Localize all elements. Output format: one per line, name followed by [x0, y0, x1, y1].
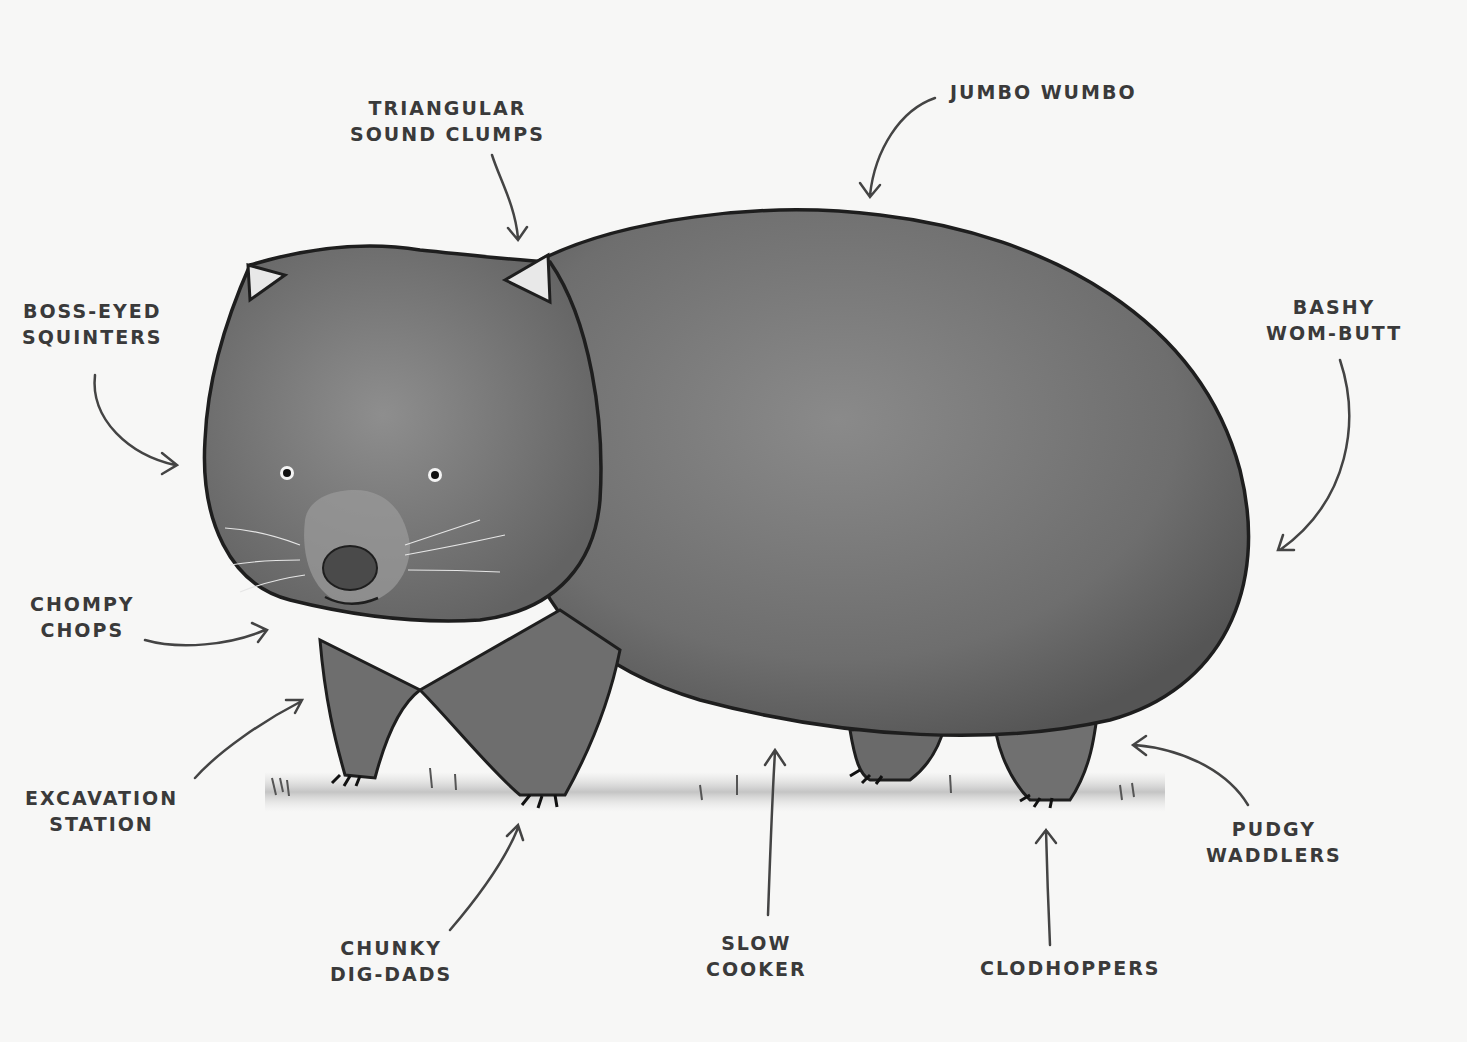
wombat-illustration: [0, 0, 1467, 1042]
front-leg-right: [420, 610, 620, 795]
wombat-diagram: Triangular Sound Clumps Jumbo Wumbo Boss…: [0, 0, 1467, 1042]
label-pudgy-waddlers: Pudgy Waddlers: [1206, 816, 1342, 868]
label-excavation-station: Excavation Station: [25, 785, 178, 837]
nose: [323, 546, 377, 590]
arrow-chunky-dig-dads: [450, 825, 523, 930]
label-clodhoppers: Clodhoppers: [980, 955, 1161, 981]
label-chompy-chops: Chompy Chops: [30, 591, 135, 643]
arrow-excavation-station: [195, 700, 302, 778]
arrow-jumbo-wumbo: [860, 98, 935, 197]
label-slow-cooker: Slow Cooker: [706, 930, 807, 982]
arrow-boss-eyed-squinters: [95, 375, 177, 474]
front-leg-left: [320, 640, 420, 778]
arrow-triangular-sound-clumps: [492, 155, 527, 240]
label-jumbo-wumbo: Jumbo Wumbo: [950, 79, 1137, 105]
arrow-chompy-chops: [145, 623, 267, 645]
label-chunky-dig-dads: Chunky Dig-Dads: [330, 935, 452, 987]
label-bashy-wom-butt: Bashy Wom-Butt: [1266, 294, 1402, 346]
label-boss-eyed-squinters: Boss-eyed Squinters: [22, 298, 163, 350]
label-triangular-sound-clumps: Triangular Sound Clumps: [350, 95, 545, 147]
arrow-clodhoppers: [1036, 830, 1056, 945]
arrow-bashy-wom-butt: [1278, 360, 1349, 550]
